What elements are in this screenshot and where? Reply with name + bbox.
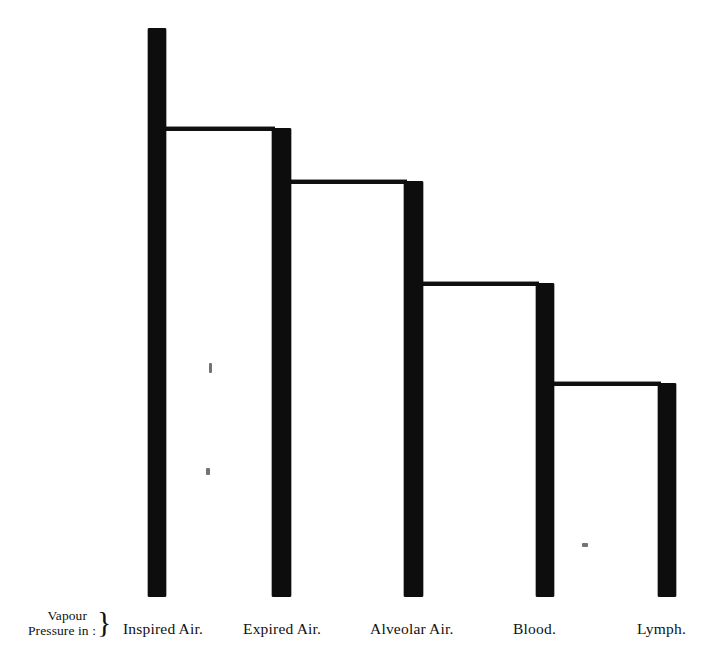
bar-inspired-air xyxy=(148,28,166,597)
axis-prefix-line1: Vapour xyxy=(47,608,96,623)
connector-expired-to-alveolar xyxy=(288,180,407,184)
connector-blood-to-lymph xyxy=(551,382,661,386)
axis-prefix-line2: Pressure in : xyxy=(28,623,96,638)
label-alveolar-air: Alveolar Air. xyxy=(370,620,454,638)
vapour-pressure-figure: Vapour Pressure in : } Inspired Air. Exp… xyxy=(0,0,716,662)
axis-prefix-label: Vapour Pressure in : } xyxy=(28,608,111,638)
scan-speck-right xyxy=(582,543,588,547)
label-inspired-air: Inspired Air. xyxy=(123,620,203,638)
bar-blood xyxy=(536,283,554,597)
label-blood: Blood. xyxy=(513,620,556,638)
connector-alveolar-to-blood xyxy=(420,282,539,286)
chart-plot-area xyxy=(0,0,716,600)
connector-inspired-to-expired xyxy=(163,127,275,131)
label-lymph: Lymph. xyxy=(637,620,686,638)
axis-prefix-text: Vapour Pressure in : xyxy=(28,608,96,638)
curly-brace-icon: } xyxy=(97,609,111,635)
category-label-row: Vapour Pressure in : } Inspired Air. Exp… xyxy=(0,600,716,662)
label-expired-air: Expired Air. xyxy=(243,620,321,638)
scan-speck-upper xyxy=(209,363,212,373)
bar-lymph xyxy=(658,383,676,597)
bar-expired-air xyxy=(272,128,291,597)
scan-speck-lower xyxy=(206,468,210,475)
bar-alveolar-air xyxy=(404,181,423,597)
